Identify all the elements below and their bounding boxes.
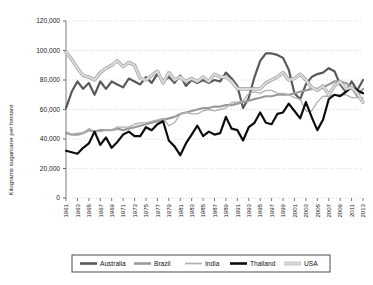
legend-label-brazil[interactable]: Brazil	[154, 260, 171, 267]
x-tick-label-1963: 1963	[74, 203, 81, 217]
x-tick-label-2013: 2013	[359, 203, 366, 217]
x-tick-label-1995: 1995	[256, 203, 263, 217]
x-tick-label-1985: 1985	[199, 203, 206, 217]
x-tick-label-2007: 2007	[325, 203, 332, 217]
legend-label-australia[interactable]: Australia	[100, 260, 126, 267]
sugarcane-yield-chart: 020,00040,00060,00080,000100,000120,000 …	[0, 0, 373, 285]
x-tick-label-1973: 1973	[131, 203, 138, 217]
legend-label-thailand[interactable]: Thailand	[250, 260, 276, 267]
y-tick-label-40,000: 40,000	[40, 135, 61, 142]
x-tick-label-1999: 1999	[279, 203, 286, 217]
x-tick-label-2003: 2003	[302, 203, 309, 217]
y-tick-label-120,000: 120,000	[36, 17, 60, 24]
x-tick-label-2009: 2009	[336, 203, 343, 217]
x-tick-label-1969: 1969	[108, 203, 115, 217]
x-tick-label-1977: 1977	[154, 203, 161, 217]
y-axis-label: Kilograms sugarcane per hectare	[7, 104, 14, 196]
legend-label-usa[interactable]: USA	[304, 260, 318, 267]
x-tick-label-1993: 1993	[245, 203, 252, 217]
x-tick-label-1991: 1991	[234, 203, 241, 217]
x-tick-label-2005: 2005	[314, 203, 321, 217]
x-tick-label-1989: 1989	[222, 203, 229, 217]
x-tick-label-1987: 1987	[211, 203, 218, 217]
x-tick-label-1981: 1981	[177, 203, 184, 217]
y-tick-label-100,000: 100,000	[36, 47, 60, 54]
y-tick-label-0: 0	[56, 194, 60, 201]
y-tick-label-20,000: 20,000	[40, 165, 61, 172]
x-tick-label-1983: 1983	[188, 203, 195, 217]
x-tick-label-1965: 1965	[85, 203, 92, 217]
plot-area-wrapper: 020,00040,00060,00080,000100,000120,000 …	[0, 0, 373, 285]
x-tick-label-1961: 1961	[62, 203, 69, 217]
y-tick-label-80,000: 80,000	[40, 76, 61, 83]
legend-label-india[interactable]: India	[205, 260, 220, 267]
chart-svg: 020,00040,00060,00080,000100,000120,000 …	[0, 0, 373, 285]
x-tick-label-1997: 1997	[268, 203, 275, 217]
x-tick-label-1975: 1975	[142, 203, 149, 217]
x-tick-label-1967: 1967	[97, 203, 104, 217]
x-tick-label-2001: 2001	[291, 203, 298, 217]
x-tick-label-2011: 2011	[348, 203, 355, 217]
y-tick-label-60,000: 60,000	[40, 106, 61, 113]
legend: AustraliaBrazilIndiaThailandUSA	[72, 255, 330, 272]
x-tick-label-1971: 1971	[119, 203, 126, 217]
x-tick-label-1979: 1979	[165, 203, 172, 217]
